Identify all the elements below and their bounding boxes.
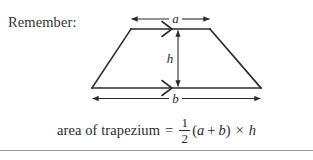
area-formula-inner: area of trapezium = 1 2 ( a + b ) × h: [57, 116, 256, 145]
bottom-divider: [0, 150, 313, 151]
remember-label: Remember:: [8, 15, 77, 30]
fraction-denominator: 2: [180, 131, 191, 145]
dimension-b: b: [93, 91, 261, 106]
dimension-h-label: h: [167, 51, 174, 66]
dimension-h: h: [167, 31, 178, 87]
trapezium-outline: [92, 29, 261, 88]
area-formula: area of trapezium = 1 2 ( a + b ) × h: [0, 116, 313, 145]
formula-equals-sign: =: [165, 123, 173, 138]
dimension-a-label: a: [172, 11, 179, 26]
formula-var-a: a: [197, 123, 204, 138]
formula-var-b: b: [219, 123, 226, 138]
reminder-panel: Remember:: [0, 0, 313, 160]
trapezium-diagram-svg: a h b: [78, 8, 278, 112]
dimension-a: a: [132, 11, 210, 26]
formula-times-sign: ×: [236, 123, 244, 138]
trapezium-left-side: [92, 29, 131, 88]
dimension-b-label: b: [172, 91, 179, 106]
formula-fraction-one-half: 1 2: [179, 116, 190, 145]
formula-words: area of trapezium: [57, 123, 160, 138]
formula-close-paren: ): [226, 123, 231, 138]
formula-plus-sign: +: [207, 123, 215, 138]
fraction-numerator: 1: [180, 116, 191, 130]
trapezium-figure: a h b: [78, 8, 278, 112]
trapezium-right-side: [210, 29, 261, 88]
formula-var-h: h: [249, 123, 256, 138]
